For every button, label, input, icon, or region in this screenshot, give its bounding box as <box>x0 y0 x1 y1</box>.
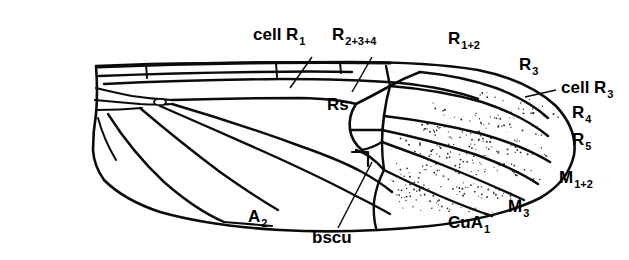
label-text: cell R <box>561 78 606 97</box>
label-subscript: 3 <box>607 88 613 100</box>
label-subscript: 1+2 <box>574 178 593 190</box>
wing-venation-figure: cell R1R2+3+4R1+2R3cell R3R4R5M1+2M3CuA1… <box>0 0 629 260</box>
label-text: Rs <box>327 95 349 114</box>
label-text: R <box>332 25 344 44</box>
label-text: R <box>448 29 460 48</box>
label-m1-2: M1+2 <box>559 168 593 190</box>
label-r4: R4 <box>572 103 592 125</box>
label-r3: R3 <box>519 55 538 77</box>
label-subscript: 2 <box>261 217 267 229</box>
label-subscript: 1+2 <box>461 39 480 51</box>
label-cell-r1: cell R1 <box>253 25 305 47</box>
crossvein-basal-2 <box>276 63 277 77</box>
label-r5: R5 <box>572 130 591 152</box>
crossvein-basal-3 <box>340 62 341 73</box>
label-subscript: 4 <box>585 113 592 125</box>
label-bscu: bscu <box>312 228 352 247</box>
label-text: R <box>572 103 584 122</box>
label-subscript: 5 <box>585 140 591 152</box>
label-subscript: 1 <box>484 223 490 235</box>
label-rs: Rs <box>327 95 349 114</box>
label-subscript: 1 <box>299 35 305 47</box>
label-text: A <box>248 207 260 226</box>
label-text: M <box>508 197 522 216</box>
label-text: bscu <box>312 228 352 247</box>
label-r2-3-4: R2+3+4 <box>332 25 377 47</box>
label-text: R <box>519 55 531 74</box>
vein-hinge-node <box>154 99 166 105</box>
label-r1-2: R1+2 <box>448 29 480 51</box>
label-subscript: 3 <box>523 207 529 219</box>
wing-diagram-svg: cell R1R2+3+4R1+2R3cell R3R4R5M1+2M3CuA1… <box>0 0 629 260</box>
label-text: cell R <box>253 25 298 44</box>
label-subscript: 3 <box>532 65 538 77</box>
label-text: CuA <box>448 213 483 232</box>
label-subscript: 2+3+4 <box>345 35 377 47</box>
wing-membrane-outline <box>93 62 575 231</box>
label-text: R <box>572 130 584 149</box>
label-text: M <box>559 168 573 187</box>
label-cell-r3: cell R3 <box>561 78 613 100</box>
crossvein-basal-1 <box>146 64 147 78</box>
